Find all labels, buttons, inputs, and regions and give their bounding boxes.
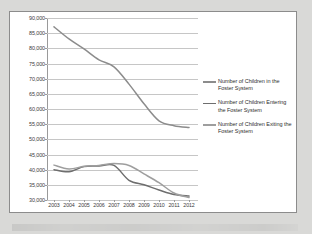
y-axis-tick-label: 70,000 [29, 76, 45, 82]
x-axis-tick-label: 2007 [108, 202, 119, 208]
y-axis-labels: 90,00085,00080,00075,00070,00065,00060,0… [12, 18, 45, 200]
legend-entry[interactable]: Number of Children Exiting the Foster Sy… [203, 121, 295, 135]
x-axis-tick-label: 2008 [123, 202, 134, 208]
series-lines [47, 18, 198, 200]
x-axis-tick-label: 2011 [169, 202, 180, 208]
y-axis-tick-label: 90,000 [29, 15, 45, 21]
x-axis-tick-label: 2004 [63, 202, 74, 208]
legend-entry[interactable]: Number of Children Entering the Foster S… [203, 99, 295, 113]
x-axis-tick-label: 2009 [138, 202, 149, 208]
y-axis-tick-label: 30,000 [29, 197, 45, 203]
legend-color-swatch [203, 124, 216, 126]
y-axis-tick-label: 85,000 [29, 30, 45, 36]
y-axis-tick-label: 35,000 [29, 182, 45, 188]
y-axis-tick-label: 80,000 [29, 45, 45, 51]
legend-color-swatch [203, 103, 216, 105]
y-axis-tick-label: 45,000 [29, 152, 45, 158]
y-axis-tick-label: 40,000 [29, 167, 45, 173]
legend-entry[interactable]: Number of Children in the Foster System [203, 78, 295, 92]
series-line [54, 27, 189, 128]
plot-area [47, 18, 198, 200]
y-axis-tick-label: 65,000 [29, 91, 45, 97]
chart-legend: Number of Children in the Foster SystemN… [203, 78, 295, 142]
y-axis-tickmark [45, 200, 47, 201]
x-axis-tick-label: 2012 [183, 202, 194, 208]
chart-panel: 90,00085,00080,00075,00070,00065,00060,0… [9, 11, 297, 213]
legend-entry-label: Number of Children in the Foster System [218, 78, 295, 92]
x-axis-tick-label: 2003 [48, 202, 59, 208]
legend-entry-label: Number of Children Entering the Foster S… [218, 99, 295, 113]
page-footer-smudge [12, 224, 298, 231]
y-axis-tick-label: 60,000 [29, 106, 45, 112]
x-axis-tick-label: 2006 [93, 202, 104, 208]
y-axis-tick-label: 50,000 [29, 136, 45, 142]
page-root: 90,00085,00080,00075,00070,00065,00060,0… [0, 0, 312, 234]
x-axis-tick-label: 2010 [153, 202, 164, 208]
x-axis-tick-label: 2005 [78, 202, 89, 208]
legend-color-swatch [203, 81, 216, 83]
legend-entry-label: Number of Children Exiting the Foster Sy… [218, 121, 295, 135]
x-axis-labels: 2003200420052006200720082009201020112012 [47, 202, 198, 214]
y-axis-tick-label: 55,000 [29, 121, 45, 127]
y-axis-tick-label: 75,000 [29, 61, 45, 67]
